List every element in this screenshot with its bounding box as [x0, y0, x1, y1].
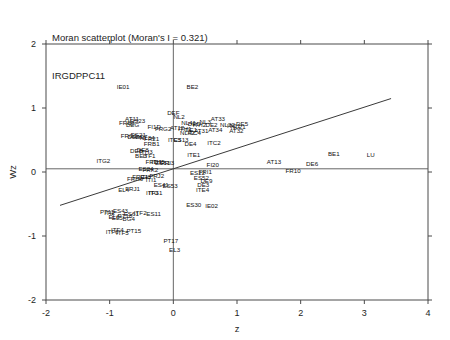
- y-axis-tick-label: -1: [28, 231, 36, 241]
- data-point-label: BE1: [328, 150, 340, 157]
- y-axis-tick-label: 2: [31, 39, 36, 49]
- data-point-label: ITE1: [187, 151, 201, 158]
- x-axis-tick-label: -1: [106, 308, 114, 318]
- data-point-label: FRI3: [161, 159, 175, 166]
- x-axis-tick-label: 1: [234, 308, 239, 318]
- data-point-label: FR10: [285, 167, 301, 174]
- plot-canvas: IE01BE2DEFNL2AT11ES23FRB3DEGAT33NL3DE5NL…: [0, 0, 450, 340]
- reference-line-layer: [46, 44, 428, 300]
- data-point-label: FRJ1: [125, 185, 140, 192]
- x-axis-tick-label: 2: [298, 308, 303, 318]
- moran-regression-line: [60, 99, 391, 206]
- x-axis-tick-label: -2: [42, 308, 50, 318]
- data-point-label: ES53: [163, 182, 179, 189]
- regression-line-layer: [60, 99, 391, 206]
- data-point-label: ITC4: [188, 129, 202, 136]
- x-axis-tick-label: 4: [425, 308, 430, 318]
- data-point-label: DE4: [184, 140, 197, 147]
- data-point-label: ES11: [146, 210, 161, 217]
- data-point-label: DE9: [200, 177, 213, 184]
- data-point-label: FI20: [207, 161, 220, 168]
- moran-scatterplot: IE01BE2DEFNL2AT11ES23FRB3DEGAT33NL3DE5NL…: [0, 0, 450, 340]
- data-point-label: DEG: [126, 121, 140, 128]
- data-point-label: ITE4: [196, 186, 210, 193]
- x-axis-title: z: [235, 323, 240, 334]
- data-point-label: ITG2: [96, 157, 110, 164]
- data-point-label: NL21: [231, 123, 246, 130]
- data-point-label: ITF2: [134, 209, 147, 216]
- x-axis-tick-label: 0: [171, 308, 176, 318]
- data-point-label: PT17: [163, 237, 178, 244]
- data-point-label: LU: [367, 151, 375, 158]
- data-point-label: ITC2: [207, 139, 221, 146]
- axis-layer: [42, 40, 432, 304]
- data-point-label: IE02: [205, 202, 218, 209]
- data-point-label: IE01: [117, 83, 130, 90]
- plot-frame: [46, 44, 428, 300]
- x-axis-tick-label: 3: [362, 308, 367, 318]
- data-point-label: AT34: [208, 126, 223, 133]
- data-point-label: AT13: [267, 158, 282, 165]
- data-point-layer: IE01BE2DEFNL2AT11ES23FRB3DEGAT33NL3DE5NL…: [96, 83, 374, 253]
- data-point-label: FRH0: [127, 175, 144, 182]
- data-point-label: BG4: [123, 215, 136, 222]
- data-point-label: ITG1: [149, 189, 163, 196]
- data-point-label: ES30: [186, 201, 202, 208]
- y-axis-title: Wz: [7, 165, 18, 179]
- y-axis-tick-label: -2: [28, 295, 36, 305]
- data-point-label: DE6: [306, 160, 319, 167]
- data-point-label: EL3: [169, 246, 181, 253]
- data-point-label: PT15: [126, 227, 141, 234]
- y-axis-tick-label: 0: [31, 167, 36, 177]
- y-axis-tick-label: 1: [31, 103, 36, 113]
- data-point-label: BE2: [187, 83, 199, 90]
- tick-label-layer: -2-101234-2-1012zWz: [7, 39, 431, 334]
